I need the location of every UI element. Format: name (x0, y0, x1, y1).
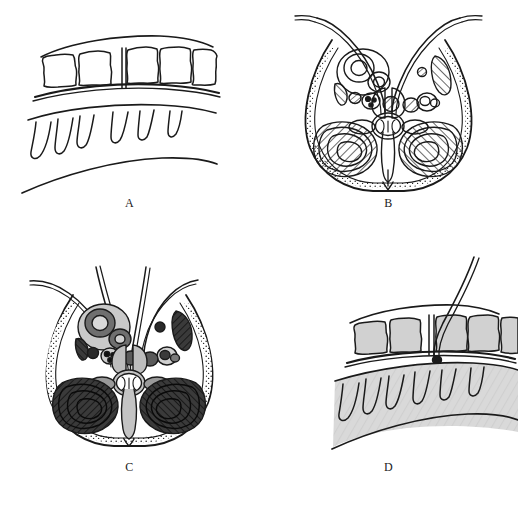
figure-canvas: A (0, 0, 518, 510)
panel-d-label: D (259, 460, 518, 475)
panel-c: C (0, 255, 259, 510)
panel-b: B (259, 0, 518, 255)
panel-a-label: A (0, 196, 259, 211)
panel-c-label: C (0, 460, 259, 475)
panel-c-artwork (0, 255, 259, 470)
panel-d-artwork (259, 255, 518, 470)
panel-a: A (0, 0, 259, 255)
panel-a-artwork (0, 0, 259, 215)
panel-d: D (259, 255, 518, 510)
panel-b-artwork (259, 0, 518, 215)
panel-b-label: B (259, 196, 518, 211)
